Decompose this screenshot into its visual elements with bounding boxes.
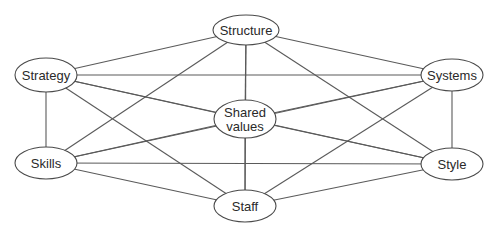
node-shared-values-label: values: [226, 119, 264, 134]
edge-skills-staff: [46, 163, 245, 206]
node-staff: Staff: [214, 190, 276, 222]
node-skills: Skills: [15, 147, 77, 179]
edge-style-staff: [245, 164, 452, 206]
edge-systems-staff: [245, 75, 452, 206]
node-staff-label: Staff: [232, 199, 259, 214]
edge-shared-values-style: [245, 119, 452, 164]
seven-s-diagram: StructureStrategySystemsSharedvaluesSkil…: [0, 0, 498, 233]
node-strategy-label: Strategy: [22, 68, 71, 83]
node-style: Style: [421, 148, 483, 180]
node-shared-values: Sharedvalues: [214, 100, 276, 138]
node-structure: Structure: [213, 15, 279, 45]
edge-skills-style: [46, 163, 452, 164]
edge-shared-values-skills: [46, 119, 245, 163]
node-style-label: Style: [438, 157, 467, 172]
node-strategy: Strategy: [15, 58, 77, 92]
node-skills-label: Skills: [31, 156, 62, 171]
nodes-layer: StructureStrategySystemsSharedvaluesSkil…: [15, 15, 483, 222]
node-systems: Systems: [421, 59, 483, 91]
node-shared-values-label: Shared: [224, 105, 266, 120]
node-systems-label: Systems: [427, 68, 477, 83]
node-structure-label: Structure: [220, 23, 273, 38]
edge-structure-systems: [246, 30, 452, 75]
